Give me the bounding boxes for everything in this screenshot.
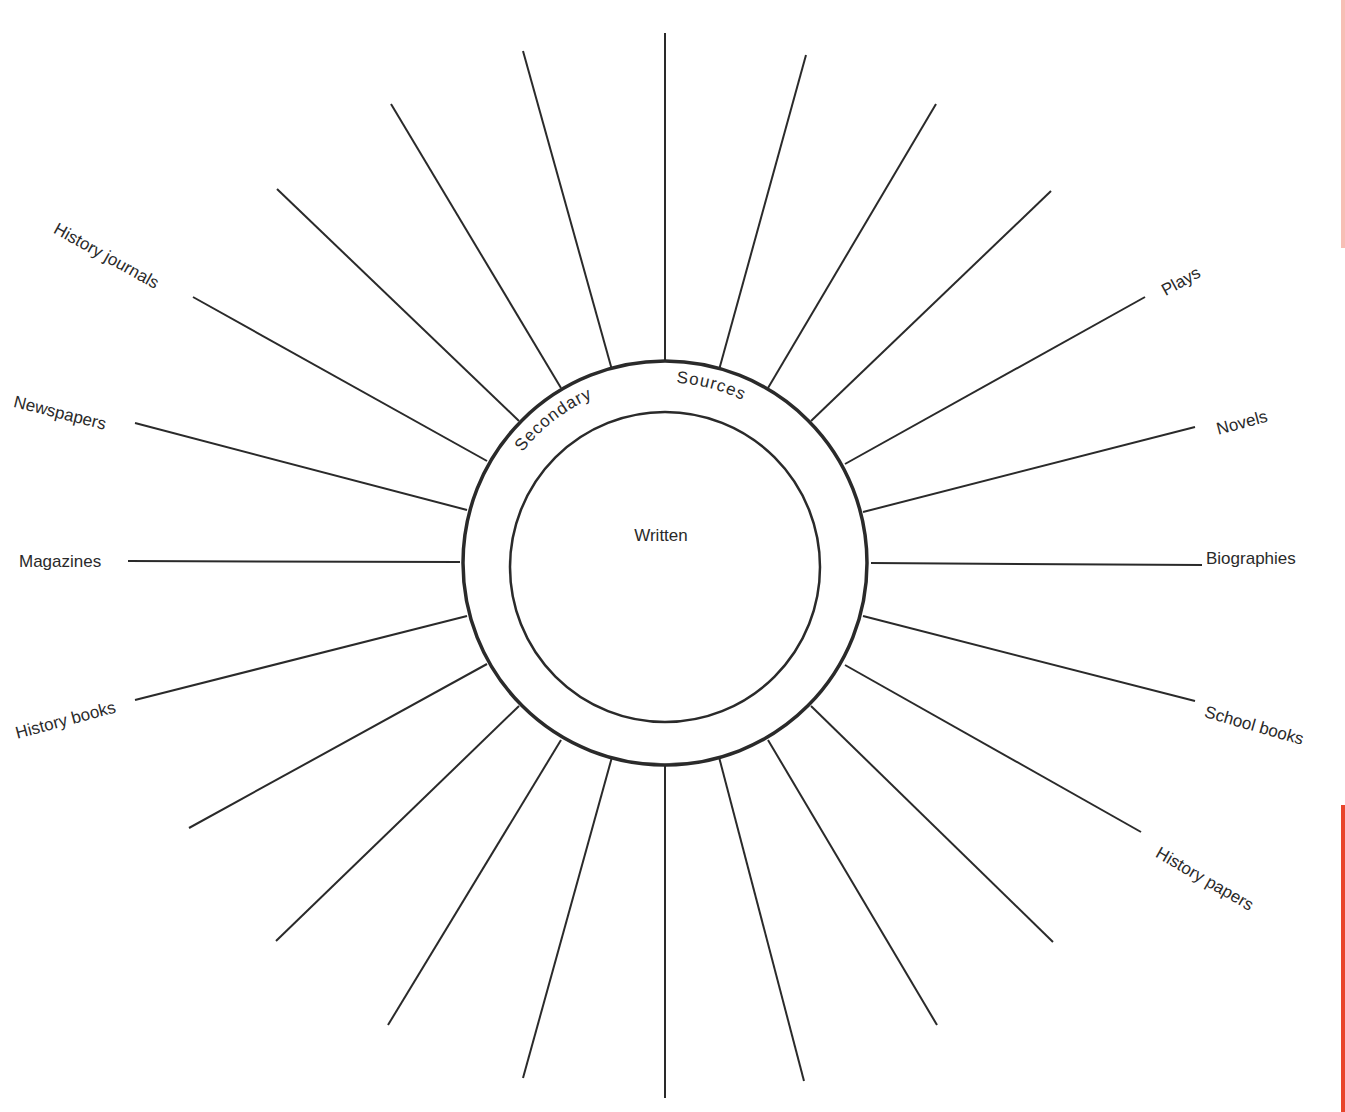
spoke-line xyxy=(135,616,467,700)
spoke-label: Magazines xyxy=(19,552,101,572)
spoke-line xyxy=(811,706,1053,942)
spoke-line xyxy=(871,563,1202,565)
spoke-line xyxy=(128,561,460,562)
spoke-line xyxy=(276,706,519,941)
spoke-line xyxy=(719,55,806,370)
spoke-line xyxy=(719,757,804,1081)
spoke-line xyxy=(193,297,487,461)
spoke-line xyxy=(863,427,1195,512)
spoke-line xyxy=(863,616,1195,701)
spoke-line xyxy=(391,104,561,388)
spoke-line xyxy=(135,423,467,510)
spoke-line xyxy=(845,297,1145,464)
spoke-label: Biographies xyxy=(1206,549,1296,569)
spoke-line xyxy=(189,664,487,828)
spoke-line xyxy=(845,665,1141,832)
spoke-line xyxy=(388,740,561,1025)
center-label-written: Written xyxy=(634,526,688,545)
spoke-line xyxy=(277,189,519,421)
page-edge-accent-bottom xyxy=(1341,805,1345,1112)
spoke-line xyxy=(768,740,937,1025)
spoke-line xyxy=(811,191,1051,421)
secondary-sources-diagram: Secondary Sources Written xyxy=(0,0,1345,1112)
spoke-line xyxy=(523,51,612,370)
inner-ring xyxy=(510,412,820,722)
spoke-line xyxy=(768,104,936,388)
page-edge-accent-top xyxy=(1341,0,1345,248)
spoke-line xyxy=(523,757,612,1078)
